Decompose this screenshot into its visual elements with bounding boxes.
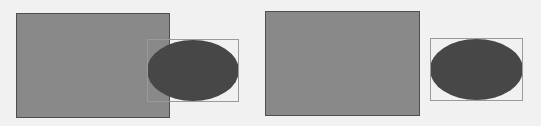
- rectangle-right: [265, 11, 420, 116]
- bounding-box-right: [430, 38, 523, 101]
- diagram-canvas: [0, 0, 541, 126]
- bounding-box-left: [147, 39, 239, 102]
